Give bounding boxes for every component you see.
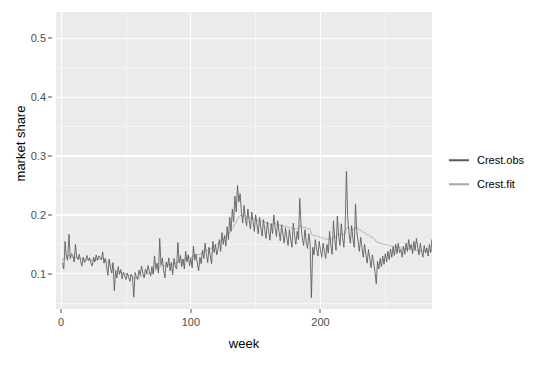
x-tick-mark: [190, 309, 191, 313]
x-tick-mark: [320, 309, 321, 313]
y-axis-title: market share: [13, 0, 28, 292]
data-series-layer: [56, 12, 432, 309]
y-tick-mark: [48, 38, 52, 39]
y-axis-tick-marks: [46, 12, 52, 309]
y-tick-label: 0.4: [31, 91, 46, 103]
legend-label: Crest.obs: [477, 154, 524, 166]
y-tick-mark: [48, 156, 52, 157]
x-axis-title: week: [56, 336, 432, 351]
series-line-Crest-fit: [62, 67, 432, 279]
x-tick-mark: [61, 309, 62, 313]
x-axis-tick-labels: 0100200: [56, 316, 432, 332]
y-tick-label: 0.5: [31, 32, 46, 44]
x-axis-tick-marks: [56, 309, 432, 315]
y-tick-label: 0.2: [31, 209, 46, 221]
legend-entry-Crest-obs[interactable]: Crest.obs: [448, 148, 542, 172]
y-tick-label: 0.1: [31, 268, 46, 280]
chart-container: 0.10.20.30.40.5 market share 0100200 wee…: [0, 0, 546, 365]
x-axis: 0100200 week: [56, 309, 432, 365]
y-tick-label: 0.3: [31, 150, 46, 162]
y-tick-mark: [48, 97, 52, 98]
legend-key-swatch: [448, 153, 470, 167]
x-tick-label: 200: [311, 316, 329, 328]
chart-legend: Crest.obsCrest.fit: [448, 148, 542, 196]
y-tick-mark: [48, 273, 52, 274]
legend-label: Crest.fit: [477, 178, 515, 190]
legend-key-swatch: [448, 177, 470, 191]
legend-entry-Crest-fit[interactable]: Crest.fit: [448, 172, 542, 196]
y-axis: 0.10.20.30.40.5: [0, 12, 56, 309]
series-line-Crest-obs: [62, 20, 432, 298]
x-tick-label: 0: [58, 316, 64, 328]
x-tick-label: 100: [182, 316, 200, 328]
plot-panel: [56, 12, 432, 309]
y-tick-mark: [48, 214, 52, 215]
